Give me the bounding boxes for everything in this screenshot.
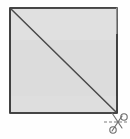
diagram-canvas bbox=[0, 0, 130, 139]
square-shading-bottom bbox=[11, 96, 117, 113]
figure-container: Square with diagonal fold line and cut m… bbox=[0, 0, 130, 139]
